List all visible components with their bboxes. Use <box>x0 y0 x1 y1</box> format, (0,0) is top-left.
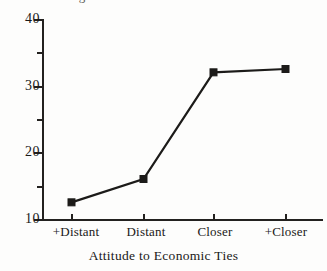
chart-figure: Percentage 40 30 20 10 +Distant Distant … <box>0 0 327 271</box>
series-line <box>72 69 286 202</box>
data-point-0 <box>68 199 75 206</box>
data-point-2 <box>210 69 217 76</box>
series-markers <box>68 66 289 206</box>
data-point-1 <box>140 176 147 183</box>
x-axis-title: Attitude to Economic Ties <box>0 248 327 264</box>
plot-area: 40 30 20 10 +Distant Distant Closer +Clo… <box>0 0 327 271</box>
series-canvas <box>0 0 327 271</box>
data-point-3 <box>282 66 289 73</box>
